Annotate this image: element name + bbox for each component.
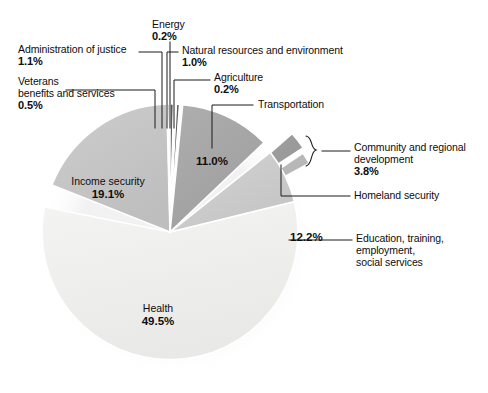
label-health-name: Health (110, 302, 206, 315)
label-homeland-security[interactable]: Homeland security (354, 189, 439, 201)
label-natural-resources-pct: 1.0% (182, 56, 343, 69)
label-transportation-name: Transportation (258, 98, 324, 110)
label-income-security[interactable]: Income security 19.1% (52, 175, 164, 201)
label-health[interactable]: Health 49.5% (110, 302, 206, 328)
label-transportation[interactable]: Transportation (258, 98, 324, 110)
label-energy-pct: 0.2% (152, 30, 185, 43)
label-income-security-pct: 19.1% (52, 188, 164, 202)
label-energy[interactable]: Energy 0.2% (152, 18, 185, 43)
label-administration-of-justice[interactable]: Administration of justice 1.1% (18, 43, 126, 68)
pie-chart-figure: Administration of justice 1.1% Veterans … (0, 0, 488, 393)
label-agriculture[interactable]: Agriculture 0.2% (214, 71, 263, 96)
label-community-and-regional-development[interactable]: Community and regional development 3.8% (354, 141, 466, 178)
label-education-training-employment-social-services[interactable]: Education, training, employment, social … (356, 232, 488, 269)
value-education-pct: 12.2% (290, 231, 348, 245)
value-transportation: 11.0% (180, 155, 244, 169)
label-agriculture-pct: 0.2% (214, 83, 263, 96)
label-community-regional-name-line1: Community and regional (354, 141, 466, 153)
label-community-regional-pct: 3.8% (354, 165, 466, 178)
label-natural-resources-name: Natural resources and environment (182, 44, 343, 56)
value-education: 12.2% (290, 231, 348, 245)
label-veterans-name-line1: Veterans (18, 75, 115, 87)
value-transportation-pct: 11.0% (180, 155, 244, 169)
label-energy-name: Energy (152, 18, 185, 30)
label-education-name-line2: social services (356, 256, 488, 268)
label-veterans-pct: 0.5% (18, 99, 115, 112)
label-veterans-name-line2: benefits and services (18, 87, 115, 99)
label-veterans-benefits-and-services[interactable]: Veterans benefits and services 0.5% (18, 75, 115, 112)
label-health-pct: 49.5% (110, 315, 206, 329)
label-community-regional-name-line2: development (354, 153, 466, 165)
label-education-name-line1: Education, training, employment, (356, 232, 488, 256)
label-administration-of-justice-pct: 1.1% (18, 55, 126, 68)
label-income-security-name: Income security (52, 175, 164, 188)
label-homeland-security-name: Homeland security (354, 189, 439, 201)
label-natural-resources-and-environment[interactable]: Natural resources and environment 1.0% (182, 44, 343, 69)
label-agriculture-name: Agriculture (214, 71, 263, 83)
label-administration-of-justice-name: Administration of justice (18, 43, 126, 55)
